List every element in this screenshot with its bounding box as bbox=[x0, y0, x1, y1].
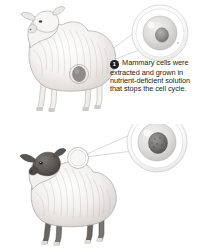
diagram-step-2: 2Egg cells were extracted, and the nucle… bbox=[0, 124, 203, 248]
udder bbox=[73, 67, 86, 82]
sheep-white-faced bbox=[21, 7, 116, 112]
step-1-caption-line-4: that stops the cell cycle. bbox=[110, 85, 202, 93]
sheep-black-faced bbox=[20, 148, 116, 247]
diagram-step-1: 1Mammary cells were extracted and grown … bbox=[0, 0, 203, 124]
step-2-cell-inset bbox=[127, 124, 187, 172]
mammary-cell-nucleus bbox=[155, 28, 168, 42]
step-1-cell-inset bbox=[132, 5, 188, 61]
step-2-illustration bbox=[0, 124, 203, 248]
step-1-caption-line-1: Mammary cells were bbox=[122, 58, 188, 67]
cloning-diagram-figure: 1Mammary cells were extracted and grown … bbox=[0, 0, 203, 248]
step-1-caption: 1Mammary cells were extracted and grown … bbox=[110, 59, 202, 94]
